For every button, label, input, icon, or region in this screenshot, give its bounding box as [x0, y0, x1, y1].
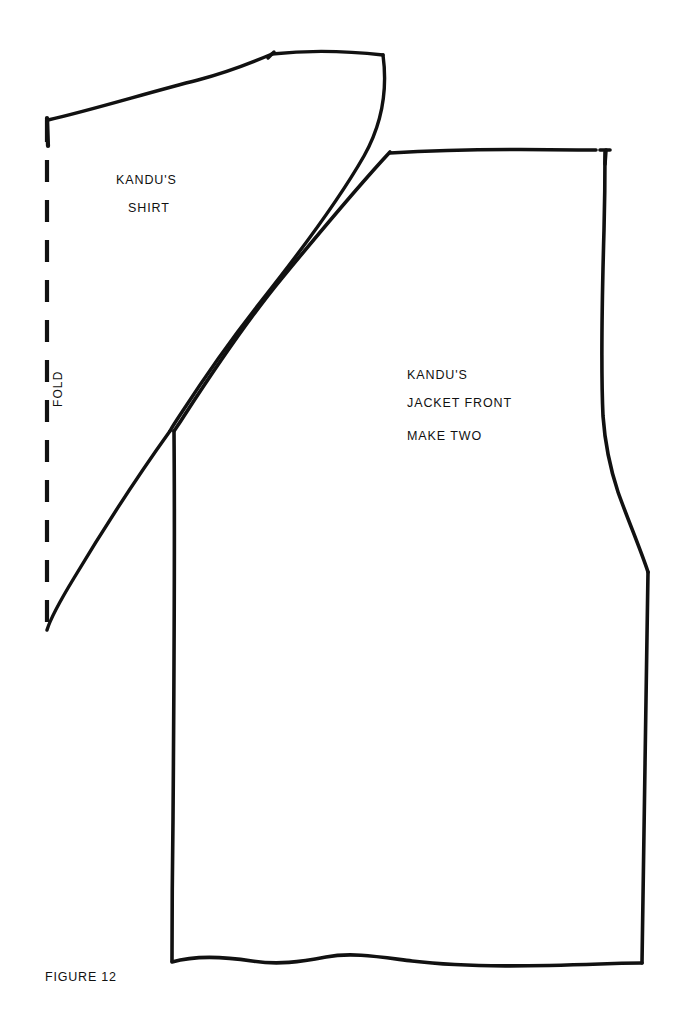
figure-caption: FIGURE 12 — [45, 971, 117, 984]
shirt-top-flat-edge — [272, 51, 383, 55]
jacket-shoulder-edge — [390, 150, 596, 153]
shirt-lower-diagonal-hem — [47, 431, 170, 630]
shirt-label-line-2: SHIRT — [128, 202, 170, 215]
jacket-lower-side-seam — [642, 572, 648, 963]
pattern-figure-page: KANDU'S SHIRT FOLD KANDU'S JACKET FRONT … — [0, 0, 683, 1033]
jacket-label-line-1: KANDU'S — [407, 369, 468, 382]
jacket-hem-edge — [172, 955, 642, 966]
jacket-label-line-2: JACKET FRONT — [407, 397, 512, 410]
shirt-top-curve — [48, 54, 272, 120]
pattern-drawing — [0, 0, 683, 1033]
shirt-label-line-1: KANDU'S — [116, 174, 177, 187]
fold-label: FOLD — [52, 371, 64, 407]
jacket-front-diagonal-edge — [174, 152, 390, 431]
jacket-make-two-label: MAKE TWO — [407, 430, 482, 443]
jacket-armhole-side-seam — [602, 152, 648, 572]
jacket-center-front-edge — [172, 431, 174, 961]
jacket-top-right-corner — [605, 150, 606, 164]
shirt-pattern-piece — [47, 51, 385, 630]
shirt-right-side-seam — [170, 55, 385, 431]
jacket-front-pattern-piece — [172, 150, 648, 966]
shirt-fold-top-corner — [47, 118, 48, 146]
